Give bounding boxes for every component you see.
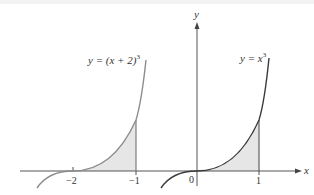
y-axis-label: y: [193, 8, 199, 20]
x-axis-arrow-icon: [295, 169, 302, 174]
left-shaded-area: [73, 120, 136, 171]
tick-label-minus-2: −2: [66, 175, 77, 186]
tick-label-0: 0: [189, 174, 194, 185]
tick-label-minus-1: −1: [129, 175, 140, 186]
right-equation-label: y = x3: [239, 51, 267, 64]
cubic-translation-diagram: y = (x + 2)3 y = x3 x y −2 −1 0 1: [0, 0, 314, 195]
right-shaded-area: [197, 120, 259, 171]
y-axis-arrow-icon: [195, 22, 200, 29]
x-axis-label: x: [303, 164, 309, 176]
tick-label-1: 1: [256, 175, 261, 186]
left-equation-label: y = (x + 2)3: [87, 53, 140, 67]
